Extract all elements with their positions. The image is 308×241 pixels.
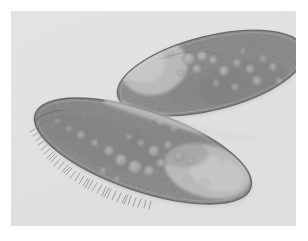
film-grain-overlay [11, 11, 296, 226]
micrograph-canvas [11, 11, 296, 226]
figure-root: Two Paramecium cells Upper Paramecium Lo… [0, 0, 308, 241]
micrograph-photo: Two Paramecium cells Upper Paramecium Lo… [11, 11, 296, 226]
